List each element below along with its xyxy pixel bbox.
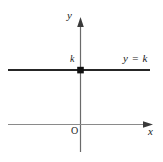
constant-function-graph: y x k O y = k: [0, 0, 163, 162]
y-axis-label: y: [67, 10, 72, 21]
y-intercept-label: k: [70, 54, 74, 64]
y-intercept-marker: [77, 67, 84, 74]
y-axis-arrow-icon: [77, 17, 84, 27]
graph-canvas: [0, 0, 163, 162]
line-equation-label: y = k: [123, 53, 148, 64]
x-axis-label: x: [148, 126, 153, 137]
origin-label: O: [71, 126, 78, 136]
